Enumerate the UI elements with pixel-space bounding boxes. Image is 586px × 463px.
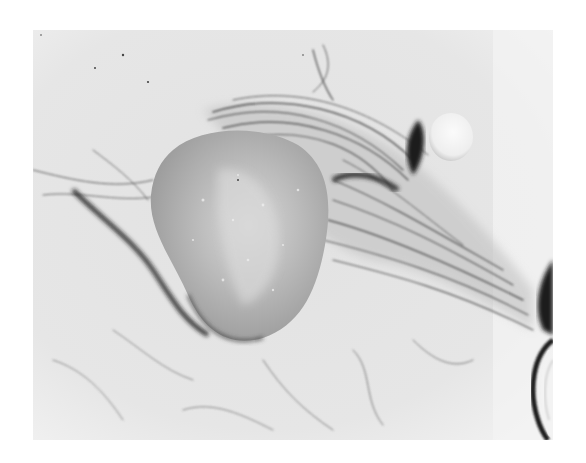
clinical-photograph bbox=[33, 30, 553, 440]
page bbox=[0, 0, 586, 463]
photo-illustration bbox=[33, 30, 553, 440]
small-nodule bbox=[429, 113, 473, 161]
